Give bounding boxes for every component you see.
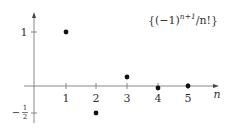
point-n5 (186, 84, 191, 89)
x-tick-label-5: 5 (185, 92, 192, 105)
x-tick-label-3: 3 (124, 92, 131, 105)
point-n3 (125, 75, 130, 80)
sequence-plot: 1 − 1 2 1 2 3 4 5 n {(−1)n+1/n!} (0, 0, 229, 128)
point-n4 (156, 86, 161, 91)
y-tick-label-neg-sign: − (12, 107, 20, 118)
point-n2 (94, 111, 99, 116)
x-tick-label-1: 1 (63, 92, 70, 105)
y-tick-label-1: 1 (21, 26, 28, 39)
y-axis-arrow-icon (32, 12, 36, 18)
x-tick-label-2: 2 (93, 92, 100, 105)
sequence-label-sup: n+1 (180, 12, 196, 21)
x-axis-label: n (213, 88, 220, 101)
x-tick-label-4: 4 (155, 92, 162, 105)
sequence-label-close: /n!} (196, 14, 218, 27)
sequence-label: {(−1)n+1/n!} (148, 12, 218, 27)
y-tick-label-neg-half-den: 2 (23, 113, 27, 121)
y-tick-label-neg-half-num: 1 (23, 104, 27, 112)
point-n1 (64, 30, 69, 35)
sequence-label-open: {(−1) (148, 14, 180, 27)
